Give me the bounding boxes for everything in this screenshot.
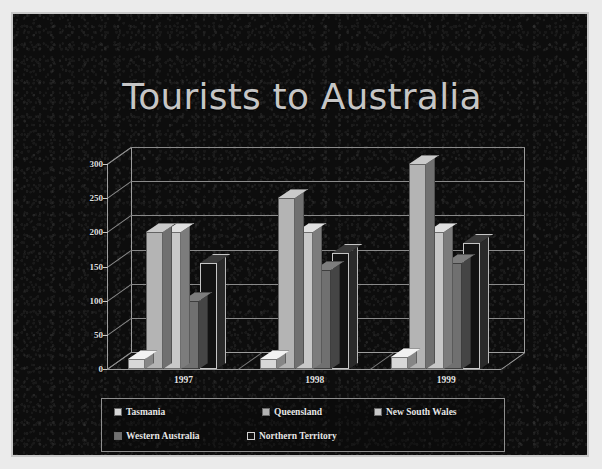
y-axis-tick-label: 200 xyxy=(69,227,103,237)
bar-front-face xyxy=(128,359,145,369)
legend-item-queensland: Queensland xyxy=(262,402,322,422)
bar-front-face xyxy=(409,164,426,369)
legend-label: Northern Territory xyxy=(259,431,337,441)
legend-item-northern-territory: Northern Territory xyxy=(247,426,337,446)
y-axis-tick-label: 100 xyxy=(69,296,103,306)
y-axis-tick-label: 300 xyxy=(69,159,103,169)
bar-queensland-1997 xyxy=(146,232,163,369)
legend-label: Queensland xyxy=(274,407,322,417)
chart-gridline xyxy=(131,147,525,148)
y-axis-tick-label: 150 xyxy=(69,262,103,272)
legend-swatch-icon xyxy=(114,432,122,440)
y-axis-tick-labels: 050100150200250300 xyxy=(65,147,103,352)
legend-row: TasmaniaQueenslandNew South Wales xyxy=(102,402,504,422)
bar-side-face xyxy=(199,295,208,369)
bar-series-layer xyxy=(107,164,525,369)
x-axis-tick-label: 1998 xyxy=(305,375,324,385)
legend-row: Western AustraliaNorthern Territory xyxy=(102,426,504,446)
bar-front-face xyxy=(278,198,295,369)
chart-axis-line xyxy=(107,147,132,165)
presentation-slide: Tourists to Australia 050100150200250300… xyxy=(11,12,589,457)
legend-item-new-south-wales: New South Wales xyxy=(374,402,457,422)
plot-area xyxy=(107,147,525,369)
x-axis-tick-labels: 199719981999 xyxy=(107,375,525,391)
bar-tasmania-1997 xyxy=(128,359,145,369)
bar-tasmania-1998 xyxy=(260,359,277,369)
y-axis-tick-label: 250 xyxy=(69,193,103,203)
page-title: Tourists to Australia xyxy=(13,76,589,117)
bar-front-face xyxy=(391,357,408,369)
chart-legend: TasmaniaQueenslandNew South Wales Wester… xyxy=(101,398,505,452)
y-axis-tick-label: 50 xyxy=(69,330,103,340)
bar-side-face xyxy=(444,226,453,369)
chart-gridline xyxy=(107,369,501,370)
legend-label: New South Wales xyxy=(386,407,457,417)
bar-side-face xyxy=(349,247,358,369)
legend-label: Tasmania xyxy=(126,407,165,417)
bar-side-face xyxy=(217,257,226,369)
slide-page: Tourists to Australia 050100150200250300… xyxy=(0,0,602,469)
legend-swatch-icon xyxy=(262,408,270,416)
legend-swatch-icon xyxy=(247,432,255,440)
bar-front-face xyxy=(146,232,163,369)
bar-tasmania-1999 xyxy=(391,357,408,369)
y-axis-tick-label: 0 xyxy=(69,364,103,374)
bar-side-face xyxy=(313,226,322,369)
legend-item-tasmania: Tasmania xyxy=(114,402,165,422)
x-axis-tick-label: 1999 xyxy=(437,375,456,385)
bar-front-face xyxy=(260,359,277,369)
bar-side-face xyxy=(480,237,489,369)
bar-side-face xyxy=(462,257,471,369)
bar-side-face xyxy=(331,264,340,369)
bar-queensland-1999 xyxy=(409,164,426,369)
legend-label: Western Australia xyxy=(126,431,200,441)
bar-chart: 050100150200250300 199719981999 xyxy=(65,147,525,382)
legend-swatch-icon xyxy=(374,408,382,416)
bar-side-face xyxy=(426,158,435,369)
bar-queensland-1998 xyxy=(278,198,295,369)
bar-side-face xyxy=(181,226,190,369)
legend-swatch-icon xyxy=(114,408,122,416)
legend-item-western-australia: Western Australia xyxy=(114,426,200,446)
x-axis-tick-label: 1997 xyxy=(174,375,193,385)
bar-side-face xyxy=(163,226,172,369)
bar-side-face xyxy=(295,192,304,369)
